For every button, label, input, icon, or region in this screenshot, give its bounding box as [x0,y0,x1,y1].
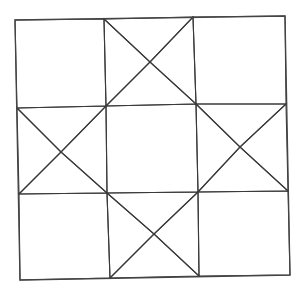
hourglass-block-right [196,104,288,192]
hourglass-block-top [104,17,196,106]
center-square [106,104,198,193]
triangle-top-light [104,17,193,62]
corner-square-bottom-right [198,191,290,276]
triangle-right-inner-light [196,104,240,192]
corner-square-top-right [193,16,286,104]
star-point-bottom-left [107,193,154,278]
triangle-bottom-inner-light [107,192,198,234]
hourglass-block-left [17,106,107,194]
quilt-block-diagram [0,0,305,300]
star-point-right-top [196,104,286,147]
star-point-left-bottom [19,152,107,194]
hourglass-block-bottom [107,192,199,278]
triangle-right-outer-light [240,104,288,191]
corner-square-top-left [15,19,106,108]
star-point-bottom-right [154,192,199,276]
star-point-right-bottom [198,147,288,192]
star-point-top-right [150,17,196,104]
corner-square-bottom-left [19,193,110,280]
triangle-left-outer-light [17,108,61,194]
triangle-bottom-outer-light [110,234,199,278]
star-point-left-top [17,106,106,152]
triangle-top-inner-light [106,62,196,106]
triangle-left-inner-light [61,106,107,193]
star-point-top-left [104,19,150,106]
